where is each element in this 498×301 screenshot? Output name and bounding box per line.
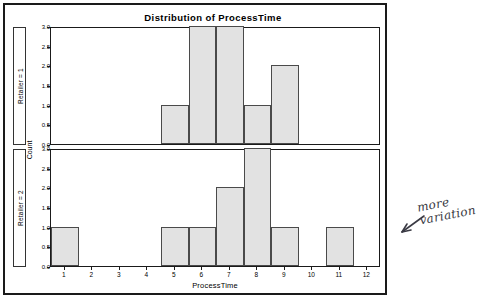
histogram-bar xyxy=(189,227,217,266)
x-tick-label: 4 xyxy=(138,271,154,279)
histogram-bar xyxy=(216,26,244,144)
x-tick-mark xyxy=(119,267,120,270)
histogram-bar xyxy=(271,227,299,266)
x-tick-label: 9 xyxy=(276,271,292,279)
histogram-bar xyxy=(271,65,299,144)
x-tick-label: 5 xyxy=(166,271,182,279)
histogram-bar xyxy=(51,227,79,266)
histogram-bar xyxy=(244,105,272,144)
x-tick-label: 12 xyxy=(358,271,374,279)
x-tick-mark xyxy=(229,267,230,270)
x-tick-mark xyxy=(64,267,65,270)
histogram-bar xyxy=(326,227,354,266)
x-tick-mark xyxy=(311,267,312,270)
x-tick-mark xyxy=(256,267,257,270)
chart-graphic-frame: Distribution of ProcessTime Retailer = 1… xyxy=(3,3,387,295)
x-tick-label: 10 xyxy=(303,271,319,279)
x-tick-mark xyxy=(91,267,92,270)
x-tick-label: 11 xyxy=(331,271,347,279)
x-tick-mark xyxy=(201,267,202,270)
strip-label-retailer-2-text: Retailer = 2 xyxy=(16,190,23,226)
strip-label-retailer-1-text: Retailer = 1 xyxy=(16,68,23,104)
plot-area-retailer-2 xyxy=(51,150,379,266)
histogram-bar xyxy=(161,227,189,266)
plot-panel-retailer-2 xyxy=(50,149,380,267)
histogram-bar xyxy=(244,148,272,266)
histogram-bar xyxy=(189,26,217,144)
x-tick-mark xyxy=(366,267,367,270)
x-tick-label: 7 xyxy=(221,271,237,279)
histogram-bar xyxy=(216,187,244,266)
chart-title: Distribution of ProcessTime xyxy=(45,10,381,25)
x-axis-title: ProcessTime xyxy=(50,281,380,290)
y-axis-panel-2: 0.00.51.01.52.02.53.0 xyxy=(31,149,50,267)
annotation-text: more variation xyxy=(416,189,486,227)
plot-panel-retailer-1 xyxy=(50,27,380,145)
annotation-arrow-icon xyxy=(398,192,496,262)
x-tick-label: 2 xyxy=(83,271,99,279)
x-tick-label: 6 xyxy=(193,271,209,279)
x-tick-label: 1 xyxy=(56,271,72,279)
plot-area-retailer-1 xyxy=(51,28,379,144)
x-tick-mark xyxy=(284,267,285,270)
x-tick-mark xyxy=(339,267,340,270)
x-tick-mark xyxy=(174,267,175,270)
x-tick-mark xyxy=(146,267,147,270)
histogram-bar xyxy=(161,105,189,144)
x-axis: 123456789101112 xyxy=(50,267,380,281)
y-axis-panel-1: 0.00.51.01.52.02.53.0 xyxy=(31,27,50,145)
handwritten-annotation: more variation xyxy=(398,192,496,262)
x-tick-label: 3 xyxy=(111,271,127,279)
x-tick-label: 8 xyxy=(248,271,264,279)
